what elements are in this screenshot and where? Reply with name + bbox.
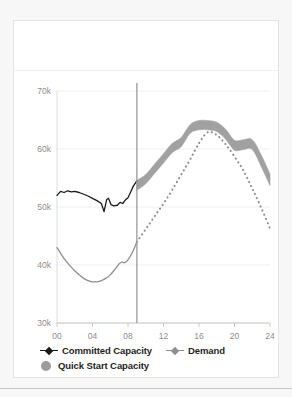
legend-row-1: Committed Capacity Demand xyxy=(40,343,275,358)
legend-label-demand: Demand xyxy=(188,345,225,356)
legend-label-quick-start-capacity: Quick Start Capacity xyxy=(58,360,149,371)
legend-label-committed-capacity: Committed Capacity xyxy=(62,345,152,356)
y-axis-tick-label: 40k xyxy=(37,260,51,270)
legend-item-quick-start-capacity[interactable]: Quick Start Capacity xyxy=(40,360,149,371)
capacity-demand-chart: 30k40k50k60k70k00040812162024 xyxy=(14,73,280,379)
x-axis-tick-label: 04 xyxy=(88,331,98,341)
series-band-quick-start-capacity xyxy=(137,120,270,190)
series-line-demand-actual xyxy=(57,242,137,282)
y-axis-tick-label: 60k xyxy=(37,144,51,154)
y-axis-tick-label: 30k xyxy=(37,318,51,328)
page-divider xyxy=(0,388,292,389)
circle-marker-icon xyxy=(40,361,54,371)
line-diamond-marker-icon xyxy=(40,346,58,355)
x-axis-tick-label: 00 xyxy=(52,331,62,341)
x-axis-tick-label: 16 xyxy=(194,331,204,341)
line-diamond-marker-icon xyxy=(166,346,184,355)
legend-item-demand[interactable]: Demand xyxy=(166,345,225,356)
chart-legend: Committed Capacity Demand Quick Start Ca… xyxy=(40,343,275,373)
y-axis-tick-label: 70k xyxy=(37,86,51,96)
chart-panel: 30k40k50k60k70k00040812162024 Committed … xyxy=(13,20,279,378)
chart-area: 30k40k50k60k70k00040812162024 xyxy=(14,73,280,379)
legend-item-committed-capacity[interactable]: Committed Capacity xyxy=(40,345,152,356)
legend-row-2: Quick Start Capacity xyxy=(40,358,275,373)
x-axis-tick-label: 12 xyxy=(159,331,169,341)
screenshot-root: 30k40k50k60k70k00040812162024 Committed … xyxy=(0,0,292,397)
y-axis-tick-label: 50k xyxy=(37,202,51,212)
panel-header xyxy=(14,21,278,71)
x-axis-tick-label: 08 xyxy=(123,331,133,341)
x-axis-tick-label: 24 xyxy=(265,331,275,341)
x-axis-tick-label: 20 xyxy=(230,331,240,341)
